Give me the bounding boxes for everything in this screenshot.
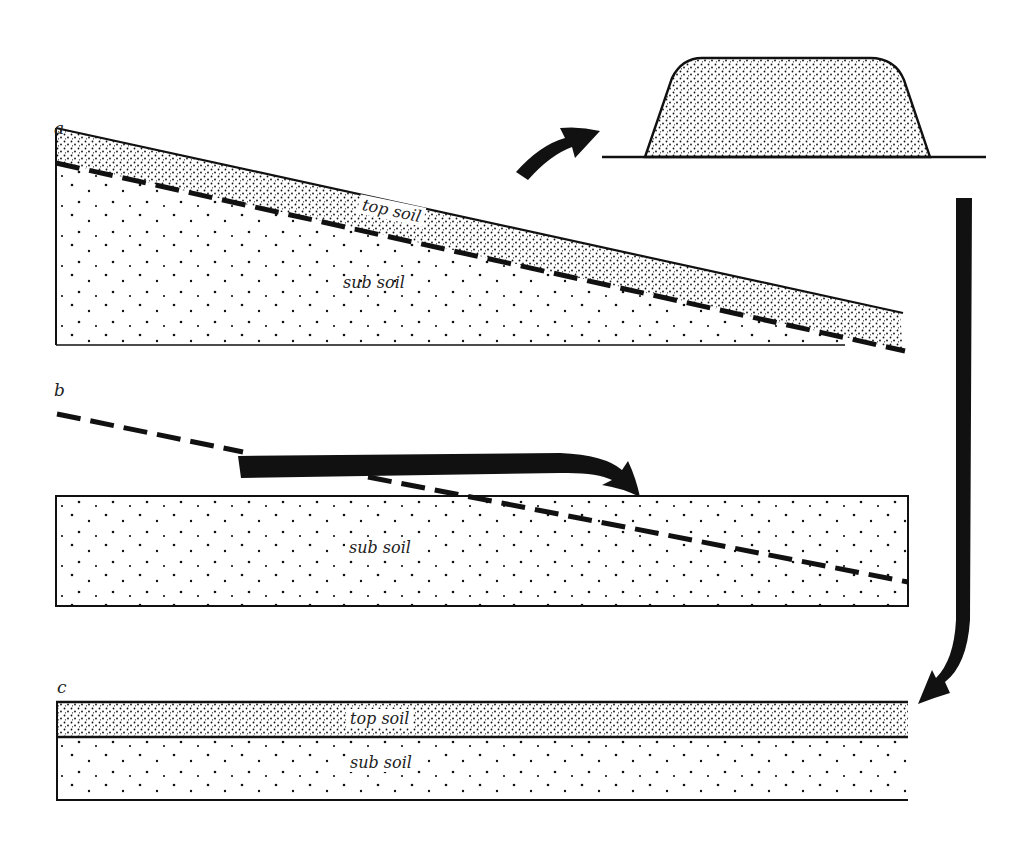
panel-c-topsoil bbox=[56, 702, 908, 737]
panel-b-original-surface-dashed bbox=[57, 414, 243, 452]
panel-b-subsoil bbox=[56, 496, 908, 606]
panel-c-label: c bbox=[57, 677, 67, 697]
soil-diagram bbox=[0, 0, 1026, 860]
panel-a bbox=[56, 128, 905, 351]
panel-a-subsoil-label: sub soil bbox=[343, 273, 405, 292]
to-stockpile-arrow-icon bbox=[516, 127, 600, 180]
panel-a-label: a bbox=[54, 118, 64, 138]
panel-c-topsoil-label: top soil bbox=[346, 709, 413, 728]
panel-c bbox=[56, 702, 908, 800]
panel-c-subsoil bbox=[56, 737, 908, 800]
panel-c-subsoil-label: sub soil bbox=[346, 753, 416, 772]
panel-a-subsoil bbox=[56, 164, 905, 351]
return-topsoil-arrow-icon bbox=[918, 198, 972, 704]
panel-b-subsoil-label: sub soil bbox=[345, 538, 415, 557]
panel-b-label: b bbox=[54, 380, 65, 400]
stockpile-mound bbox=[602, 58, 986, 157]
panel-b bbox=[56, 414, 908, 606]
